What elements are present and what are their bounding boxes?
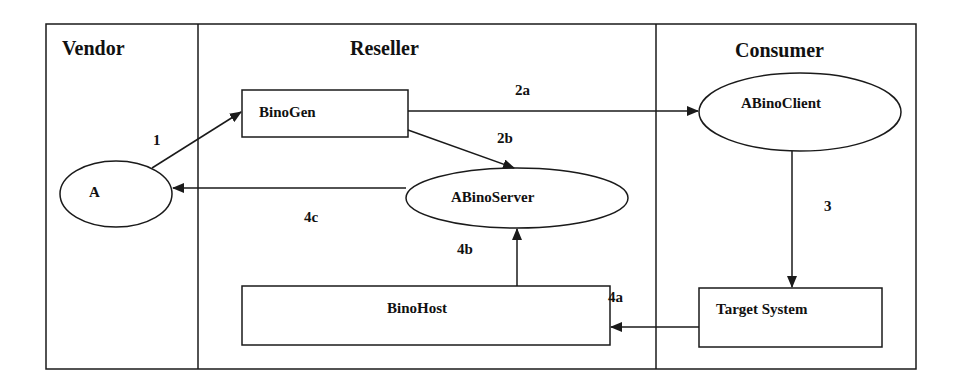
node-abinoclient-label: ABinoClient — [741, 96, 821, 111]
diagram-canvas: Vendor Reseller Consumer A BinoGen ABino… — [0, 0, 961, 385]
node-a-shape — [60, 161, 172, 227]
edge-1-arrow — [152, 112, 241, 168]
node-abinoclient-shape — [699, 73, 901, 151]
lane-title-vendor: Vendor — [62, 38, 125, 58]
node-target-system-label: Target System — [716, 302, 808, 317]
edge-4b-label: 4b — [457, 242, 473, 257]
edge-2a-label: 2a — [515, 83, 530, 98]
edge-1-label: 1 — [153, 133, 161, 148]
lane-title-reseller: Reseller — [350, 38, 419, 58]
node-abinoserver-label: ABinoServer — [451, 190, 534, 205]
node-target-system-shape — [699, 288, 882, 347]
node-binogen-label: BinoGen — [259, 105, 316, 120]
node-a-label: A — [89, 185, 100, 200]
lane-title-consumer: Consumer — [735, 40, 824, 60]
edge-2b-label: 2b — [497, 131, 513, 146]
node-binohost-label: BinoHost — [387, 301, 447, 316]
edge-4a-label: 4a — [608, 290, 623, 305]
edge-4c-label: 4c — [304, 210, 318, 225]
edge-3-label: 3 — [824, 199, 832, 214]
